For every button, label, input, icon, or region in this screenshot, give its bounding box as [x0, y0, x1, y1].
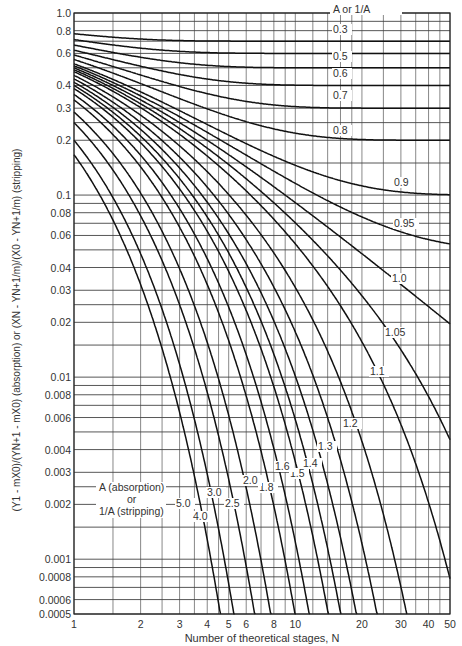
x-tick-label: 30 — [395, 618, 407, 630]
legend-line-2: or — [127, 493, 137, 505]
y-tick-label: 0.06 — [51, 229, 72, 241]
curve-A-2.0 — [74, 100, 296, 614]
curve-label-3.0: 3.0 — [207, 486, 222, 498]
curve-label-5.0: 5.0 — [176, 497, 191, 509]
x-tick-label: 2 — [138, 618, 144, 630]
curve-label-1.4: 1.4 — [303, 457, 318, 469]
y-tick-label: 0.8 — [56, 25, 71, 37]
x-tick-label: 6 — [243, 618, 249, 630]
curve-A-1.3 — [74, 79, 378, 614]
y-tick-label: 0.04 — [51, 262, 72, 274]
curve-label-1.3: 1.3 — [318, 440, 333, 452]
bottom-legend: A (absorption) or 1/A (stripping) — [96, 481, 166, 518]
curve-label-0.3: 0.3 — [333, 23, 348, 35]
curve-label-0.8: 0.8 — [333, 124, 348, 136]
x-tick-label: 50 — [444, 618, 456, 630]
x-tick-label: 40 — [423, 618, 435, 630]
y-tick-label: 0.008 — [45, 389, 71, 401]
x-tick-label: 3 — [177, 618, 183, 630]
y-tick-label: 0.3 — [56, 102, 71, 114]
y-tick-label: 0.0006 — [39, 594, 71, 606]
y-axis-title: (Y1 - mX0)/(YN+1 - mX0) (absorption) or … — [11, 149, 22, 512]
legend-title: A or 1/A — [333, 3, 370, 15]
x-tick-label: 10 — [289, 618, 301, 630]
y-tick-label: 0.6 — [56, 47, 71, 59]
x-axis-title: Number of theoretical stages, N — [185, 632, 340, 644]
y-tick-label: 0.003 — [45, 466, 71, 478]
y-axis-title-text: (Y1 - mX0)/(YN+1 - mX0) (absorption) or … — [11, 149, 22, 512]
x-tick-label: 1 — [71, 618, 77, 630]
y-tick-label: 0.004 — [45, 444, 71, 456]
curve-A-0.3 — [74, 34, 450, 42]
curve-label-0.9: 0.9 — [394, 176, 409, 188]
curve-A-0.7 — [74, 55, 450, 108]
curve-label-0.5: 0.5 — [333, 50, 348, 62]
x-tick-label: 20 — [356, 618, 368, 630]
y-tick-label: 0.001 — [45, 553, 71, 565]
y-tick-label: 1.0 — [56, 7, 71, 19]
y-tick-label: 0.03 — [51, 284, 72, 296]
curve-label-2.0: 2.0 — [243, 474, 258, 486]
chart: 12345681020304050 1.00.80.60.40.30.20.10… — [0, 0, 462, 646]
curve-label-1.6: 1.6 — [275, 460, 290, 472]
curve-A-1.6 — [74, 89, 329, 614]
y-tick-label: 0.08 — [51, 207, 72, 219]
curve-label-4.0: 4.0 — [193, 510, 208, 522]
legend-line-1: A (absorption) — [99, 481, 164, 493]
curve-label-1.05: 1.05 — [385, 326, 406, 338]
x-tick-label: 8 — [271, 618, 277, 630]
curve-label-1.0: 1.0 — [392, 272, 407, 284]
y-tick-label: 0.4 — [56, 79, 71, 91]
y-tick-label: 0.006 — [45, 412, 71, 424]
curve-label-2.5: 2.5 — [225, 497, 240, 509]
y-tick-label: 0.1 — [56, 189, 71, 201]
y-tick-label: 0.02 — [51, 316, 72, 328]
y-tick-label: 0.2 — [56, 134, 71, 146]
y-tick-label: 0.002 — [45, 498, 71, 510]
curve-label-0.6: 0.6 — [333, 67, 348, 79]
curve-label-1.1: 1.1 — [370, 365, 385, 377]
x-tick-label: 5 — [226, 618, 232, 630]
curve-label-1.2: 1.2 — [343, 417, 358, 429]
y-tick-label: 0.01 — [51, 371, 72, 383]
curve-label-0.95: 0.95 — [394, 217, 415, 229]
y-tick-label: 0.0008 — [39, 571, 71, 583]
legend-line-3: 1/A (stripping) — [99, 505, 164, 517]
x-tick-label: 4 — [204, 618, 210, 630]
curve-A-1.4 — [74, 82, 357, 614]
y-tick-label: 0.0005 — [39, 608, 71, 620]
x-axis-ticks: 12345681020304050 — [71, 618, 456, 630]
y-axis-ticks: 1.00.80.60.40.30.20.10.080.060.040.030.0… — [39, 7, 71, 620]
curve-label-0.7: 0.7 — [333, 89, 348, 101]
curve-A-1.0 — [74, 68, 450, 324]
curve-labels: 0.30.50.60.70.80.90.951.01.051.11.21.31.… — [175, 23, 419, 522]
